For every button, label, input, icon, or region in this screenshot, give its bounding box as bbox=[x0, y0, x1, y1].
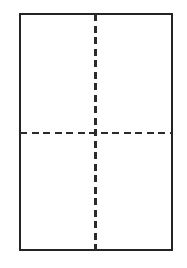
rectangle-centerline-diagram bbox=[0, 0, 187, 268]
figure-canvas bbox=[0, 0, 187, 268]
